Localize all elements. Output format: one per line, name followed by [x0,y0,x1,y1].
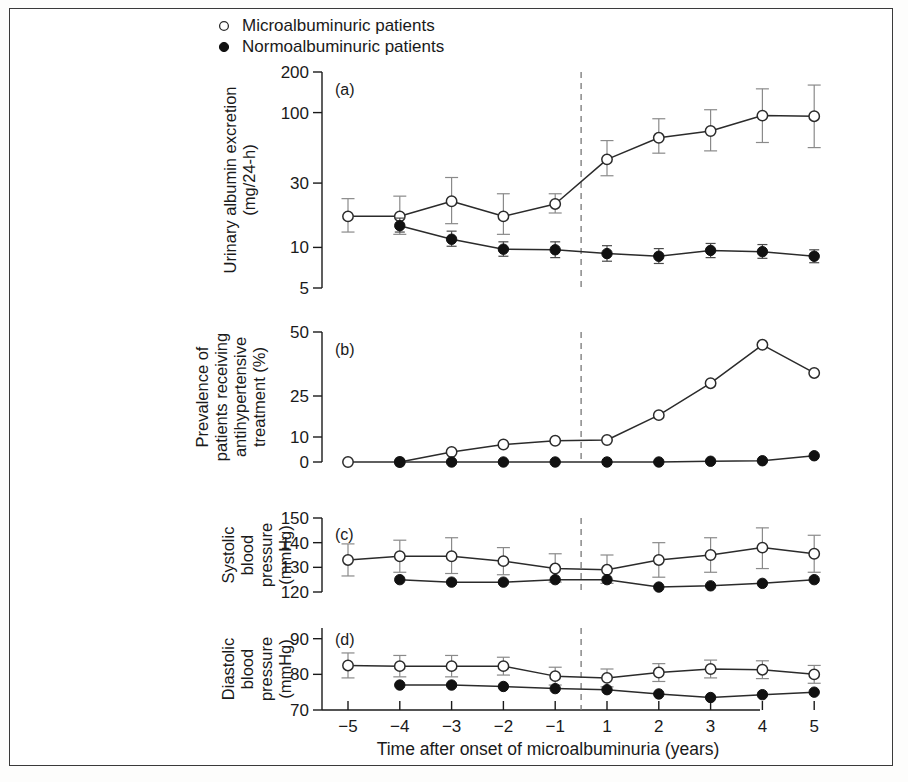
data-point-filled-circle-0-1-8 [757,246,767,256]
x-tick-label-8: 4 [758,717,767,736]
y-tick-label-3-0: 70 [290,701,309,720]
y-axis-title-line-1-3: treatment (%) [250,347,268,447]
data-point-filled-circle-3-1-1 [395,680,405,690]
y-tick-label-2-0: 120 [281,583,309,602]
y-axis-title-line-0-1: (mg/24-h) [240,144,258,216]
y-axis-title-line-3-2: pressure [257,637,275,701]
y-axis-title-line-1-2: antihypertensive [231,337,249,457]
data-point-open-circle-2-0-8 [757,542,767,552]
legend-marker-open-circle [220,22,229,31]
data-point-filled-circle-1-1-4 [550,457,560,467]
y-axis-title-line-2-2: pressure [257,523,275,587]
data-point-open-circle-1-0-0 [343,457,353,467]
panel-c: 120130140150(c)Systolicbloodpressure(mmH… [219,509,821,602]
y-tick-label-0-0: 5 [300,279,309,298]
panel-b: 0102550(b)Prevalence ofpatients receivin… [193,323,820,472]
y-tick-label-1-2: 25 [290,387,309,406]
y-tick-label-0-3: 100 [281,104,309,123]
y-tick-label-1-0: 0 [300,453,309,472]
data-point-filled-circle-2-1-3 [498,577,508,587]
data-point-filled-circle-2-1-8 [757,578,767,588]
data-point-filled-circle-3-1-9 [809,687,819,697]
data-point-open-circle-2-0-6 [654,555,664,565]
y-tick-label-0-2: 30 [290,174,309,193]
data-point-open-circle-3-0-5 [602,673,612,683]
x-tick-label-9: 5 [809,717,818,736]
data-point-open-circle-0-0-2 [446,196,456,206]
multi-panel-chart: Microalbuminuric patientsNormoalbuminuri… [0,0,908,782]
panel-d: 708090−5−4−3−2−112345(d)Diastolicbloodpr… [219,628,821,736]
x-tick-label-2: −3 [442,717,461,736]
data-point-open-circle-2-0-7 [705,550,715,560]
data-point-open-circle-0-0-0 [343,211,353,221]
data-point-filled-circle-1-1-9 [809,451,819,461]
y-axis-title-line-2-3: (mmHg) [276,525,294,585]
data-point-open-circle-0-0-9 [809,111,819,121]
data-point-open-circle-1-0-8 [757,340,767,350]
data-point-open-circle-1-0-7 [705,378,715,388]
data-point-filled-circle-1-1-2 [446,457,456,467]
data-point-open-circle-2-0-2 [446,551,456,561]
data-point-open-circle-3-0-9 [809,669,819,679]
y-tick-label-1-1: 10 [290,428,309,447]
y-axis-title-line-0-0: Urinary albumin excretion [221,86,239,273]
panel-a: 51030100200(a)Urinary albumin excretion(… [221,63,821,298]
x-tick-label-5: 1 [602,717,611,736]
figure-root: Microalbuminuric patientsNormoalbuminuri… [0,0,908,782]
panel-tag-0: (a) [335,81,355,98]
panel-tag-3: (d) [335,631,355,648]
y-axis-title-line-2-1: blood [238,535,256,575]
y-axis-title-line-1-0: Prevalence of [193,346,211,447]
y-tick-label-0-4: 200 [281,63,309,82]
data-point-open-circle-3-0-1 [395,661,405,671]
data-point-filled-circle-3-1-3 [498,681,508,691]
data-point-open-circle-0-0-7 [705,126,715,136]
data-point-filled-circle-1-1-8 [757,456,767,466]
chart-legend: Microalbuminuric patientsNormoalbuminuri… [219,16,444,56]
data-point-filled-circle-0-1-7 [705,245,715,255]
data-point-filled-circle-0-1-2 [446,234,456,244]
data-point-open-circle-0-0-4 [550,199,560,209]
data-point-filled-circle-0-1-3 [498,244,508,254]
data-point-filled-circle-3-1-7 [705,692,715,702]
data-point-filled-circle-3-1-6 [654,689,664,699]
legend-marker-filled-circle [219,42,228,51]
data-point-open-circle-2-0-0 [343,555,353,565]
x-tick-label-3: −2 [494,717,513,736]
data-point-filled-circle-2-1-2 [446,577,456,587]
data-point-open-circle-3-0-4 [550,671,560,681]
y-tick-label-2-3: 150 [281,509,309,528]
data-point-filled-circle-3-1-8 [757,689,767,699]
y-axis-title-line-2-0: Systolic [219,527,237,584]
data-point-open-circle-0-0-3 [498,211,508,221]
y-axis-title-line-3-1: blood [238,649,256,689]
panel-tag-2: (c) [335,526,354,543]
data-point-open-circle-0-0-6 [654,133,664,143]
data-point-filled-circle-2-1-7 [705,581,715,591]
data-point-open-circle-3-0-2 [446,661,456,671]
data-point-open-circle-1-0-9 [809,368,819,378]
data-point-open-circle-2-0-1 [395,551,405,561]
data-point-filled-circle-2-1-1 [395,574,405,584]
x-tick-label-4: −1 [546,717,565,736]
data-point-open-circle-0-0-8 [757,110,767,120]
data-point-filled-circle-1-1-5 [602,457,612,467]
data-point-open-circle-3-0-0 [343,660,353,670]
data-point-open-circle-1-0-2 [446,447,456,457]
y-axis-title-line-3-3: (mmHg) [276,639,294,699]
x-tick-label-0: −5 [338,717,357,736]
data-point-filled-circle-0-1-5 [602,248,612,258]
data-point-filled-circle-3-1-2 [446,680,456,690]
data-point-filled-circle-1-1-1 [395,457,405,467]
data-point-open-circle-0-0-5 [602,154,612,164]
data-point-filled-circle-0-1-1 [395,220,405,230]
data-point-filled-circle-2-1-5 [602,574,612,584]
legend-label-1: Normoalbuminuric patients [242,37,444,56]
data-point-filled-circle-1-1-6 [654,457,664,467]
data-point-filled-circle-2-1-4 [550,574,560,584]
data-point-open-circle-1-0-5 [602,435,612,445]
x-axis-caption: Time after onset of microalbuminuria (ye… [377,739,720,759]
x-axis-title: Time after onset of microalbuminuria (ye… [377,739,720,759]
data-point-filled-circle-3-1-5 [602,684,612,694]
data-point-filled-circle-3-1-4 [550,683,560,693]
